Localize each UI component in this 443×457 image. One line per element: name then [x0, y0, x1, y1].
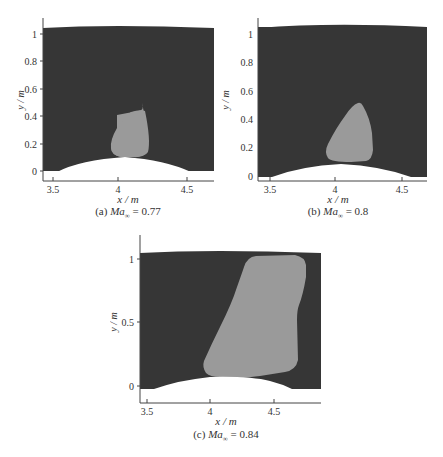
- caption-label: (c): [193, 428, 208, 440]
- ytick-label: 0.6: [25, 84, 38, 95]
- ytick-label: 1: [248, 29, 253, 40]
- ytick-label: 0.4: [241, 114, 254, 125]
- y-axis-label: y / m: [110, 312, 119, 332]
- panel-caption: (c) Ma∞ = 0.84: [110, 428, 342, 443]
- ytick-label: 0.8: [241, 57, 254, 68]
- caption-value: = 0.84: [228, 428, 259, 440]
- y-axis-label: y / m: [221, 90, 231, 110]
- ytick-label: 0.2: [241, 142, 254, 153]
- ytick-label: 0: [129, 381, 134, 392]
- plot-b: 3.5 4 4.5 1 0.8 0.6 0.4 0.2 0 y / m: [221, 0, 443, 200]
- caption-var: Ma: [208, 428, 223, 440]
- plot-a: 3.5 4 4.5 1 0.8 0.6 0.4 0.2 0 y / m: [0, 0, 221, 200]
- caption-value: = 0.8: [343, 205, 368, 217]
- panel-c: 3.5 4 4.5 1 0.5 0 y / m x / m (c) Ma∞ = …: [110, 215, 340, 457]
- ytick-label: 0.6: [241, 86, 254, 97]
- x-axis-label: x / m: [0, 193, 256, 205]
- ytick-label: 0.4: [25, 111, 38, 122]
- caption-label: (a): [95, 205, 110, 217]
- plot-c: 3.5 4 4.5 1 0.5 0 y / m: [110, 215, 340, 425]
- y-axis-label: y / m: [15, 90, 26, 110]
- ytick-label: 0: [248, 171, 253, 182]
- ytick-label: 0.8: [25, 56, 38, 67]
- ytick-label: 1: [32, 29, 37, 40]
- ytick-label: 1: [129, 254, 134, 265]
- panel-b: 3.5 4 4.5 1 0.8 0.6 0.4 0.2 0 y / m x / …: [221, 0, 443, 215]
- ytick-label: 0: [32, 166, 37, 177]
- panel-a: 3.5 4 4.5 1 0.8 0.6 0.4 0.2 0 y / m x / …: [0, 0, 221, 215]
- ytick-label: 0.2: [25, 139, 38, 150]
- ytick-label: 0.5: [122, 317, 135, 328]
- x-axis-label: x / m: [221, 193, 443, 205]
- x-axis-label: x / m: [110, 415, 342, 427]
